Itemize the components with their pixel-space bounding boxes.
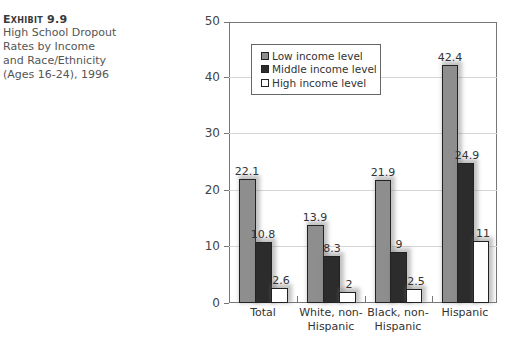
- chart-title: High School Dropout Rates by Income and …: [3, 26, 193, 82]
- y-tick-label: 40: [196, 71, 220, 83]
- legend-label: High income level: [272, 77, 366, 89]
- x-category-label: Hispanic: [430, 306, 500, 320]
- x-category-label: White, non- Hispanic: [296, 306, 366, 334]
- x-category-label: Total: [228, 306, 298, 320]
- value-label: 9: [384, 239, 414, 251]
- legend-label: Middle income level: [272, 63, 377, 75]
- value-label: 2: [334, 279, 364, 291]
- chart-caption: Exhibit 9.9 High School Dropout Rates by…: [3, 13, 193, 82]
- legend-item-low: Low income level: [261, 49, 380, 63]
- bar-black-high: [406, 289, 422, 303]
- legend-item-high: High income level: [261, 76, 380, 90]
- value-label: 8.3: [317, 243, 347, 255]
- value-label: 11: [468, 228, 498, 240]
- y-tick-label: 20: [196, 184, 220, 196]
- legend-label: Low income level: [272, 50, 363, 62]
- value-label: 2.6: [266, 275, 296, 287]
- exhibit-label: Exhibit 9.9: [3, 13, 193, 26]
- y-tick-label: 50: [196, 15, 220, 27]
- bar-hispanic-high: [473, 241, 489, 303]
- y-tick: [224, 303, 229, 304]
- legend-swatch-middle: [261, 65, 269, 73]
- x-category-label: Black, non- Hispanic: [363, 306, 433, 334]
- x-tick: [297, 296, 298, 303]
- value-label: 13.9: [300, 212, 330, 224]
- bar-total-middle: [255, 242, 272, 303]
- y-tick-label: 10: [196, 240, 220, 252]
- y-tick-label: 30: [196, 127, 220, 139]
- value-label: 22.1: [232, 166, 262, 178]
- y-tick: [224, 133, 229, 134]
- legend-swatch-low: [261, 52, 269, 60]
- x-tick: [365, 296, 366, 303]
- legend-item-middle: Middle income level: [261, 63, 380, 77]
- bar-total-high: [271, 288, 288, 303]
- bar-total-low: [239, 179, 256, 303]
- y-tick: [224, 246, 229, 247]
- value-label: 42.4: [435, 52, 465, 64]
- x-tick: [432, 296, 433, 303]
- value-label: 24.9: [452, 150, 482, 162]
- bar-white-low: [307, 225, 324, 303]
- y-tick: [224, 22, 229, 23]
- value-label: 10.8: [248, 229, 278, 241]
- bar-white-high: [339, 292, 356, 303]
- y-tick-label: 0: [196, 297, 220, 309]
- legend: Low income level Middle income level Hig…: [251, 44, 381, 95]
- legend-swatch-high: [261, 79, 269, 87]
- bar-hispanic-low: [442, 65, 458, 303]
- value-label: 2.5: [401, 276, 431, 288]
- y-tick: [224, 190, 229, 191]
- y-tick: [224, 77, 229, 78]
- value-label: 21.9: [368, 167, 398, 179]
